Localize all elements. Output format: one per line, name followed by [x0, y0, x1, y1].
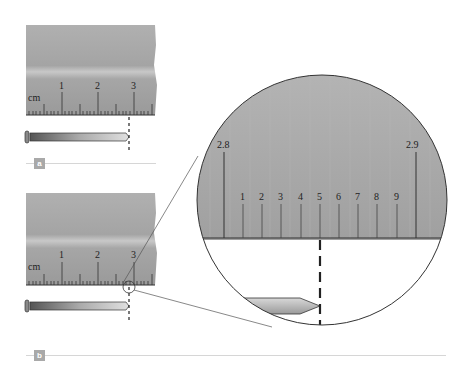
- divider-a: [26, 163, 156, 164]
- minor-label: 7: [355, 191, 360, 202]
- magnifier: 2.8 2.9 1 2 3 4 5 6 7 8 9: [190, 70, 460, 330]
- nail-a: [25, 117, 129, 150]
- tick-label-1b: 1: [59, 249, 64, 260]
- ruler-b: cm 1 2 3: [26, 193, 157, 285]
- ruler-a: cm 1 2 3: [26, 25, 157, 115]
- minor-label: 8: [374, 191, 379, 202]
- minor-label: 2: [259, 191, 264, 202]
- panel-label-b: b: [34, 350, 45, 361]
- tick-label-3b: 3: [131, 249, 136, 260]
- connector-line-bottom: [134, 290, 272, 327]
- panel-label-a: a: [34, 158, 45, 169]
- minor-label: 6: [336, 191, 341, 202]
- minor-label: 9: [394, 191, 399, 202]
- tick-label-2: 2: [95, 80, 100, 91]
- unit-label-a: cm: [28, 92, 40, 103]
- unit-label-b: cm: [28, 261, 40, 272]
- tick-label-2b: 2: [95, 249, 100, 260]
- tick-label-1: 1: [59, 80, 64, 91]
- major-label-2-8: 2.8: [217, 139, 230, 150]
- nail-b: [25, 281, 135, 320]
- major-label-2-9: 2.9: [406, 139, 419, 150]
- divider-b: [26, 355, 446, 356]
- minor-label: 1: [240, 191, 245, 202]
- minor-label: 5: [317, 191, 322, 202]
- minor-label: 4: [298, 191, 303, 202]
- tick-label-3: 3: [131, 80, 136, 91]
- measurement-diagram: cm 1 2 3: [0, 0, 468, 381]
- minor-label: 3: [278, 191, 283, 202]
